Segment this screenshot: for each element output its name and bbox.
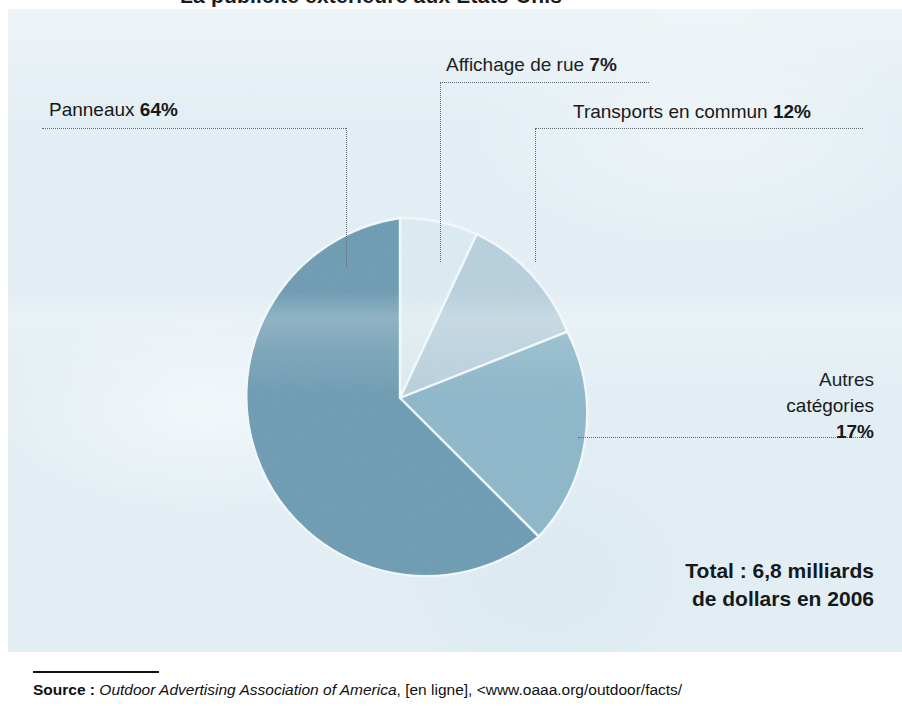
callout-panneaux: Panneaux 64%: [49, 98, 178, 121]
callout-transports-en-commun: Transports en commun 12%: [573, 100, 811, 123]
total-annotation: Total : 6,8 milliards de dollars en 2006: [568, 557, 874, 613]
callout-panneaux-value: 64%: [140, 99, 178, 120]
pie-slice-transports-en-commun: [400, 234, 567, 398]
leader-line-affichage-horizontal: [440, 82, 649, 83]
source-publication: Outdoor Advertising Association of Ameri…: [99, 681, 396, 698]
leader-line-transports-vertical: [535, 128, 536, 262]
total-line2: de dollars en 2006: [568, 585, 874, 613]
pie-slices: [246, 218, 587, 576]
source-label: Source :: [33, 681, 95, 698]
callout-autres-line2: catégories: [668, 393, 874, 419]
callout-transports-value: 12%: [773, 101, 811, 122]
chart-title-text: La publicite exterieure aux Etats-Unis: [180, 0, 562, 8]
chart-panel: Panneaux 64% Affichage de rue 7% Transpo…: [8, 9, 902, 652]
pie-slice-autres-categories: [400, 332, 587, 537]
callout-autres-line1: Autres: [668, 367, 874, 393]
chart-title-clipped: La publicite exterieure aux Etats-Unis: [0, 0, 902, 9]
total-line1: Total : 6,8 milliards: [568, 557, 874, 585]
leader-line-panneaux-horizontal: [42, 128, 346, 129]
callout-panneaux-name: Panneaux: [49, 99, 135, 120]
source-rest: , [en ligne], <www.oaaa.org/outdoor/fact…: [397, 681, 683, 698]
figure-pie-publicite-exterieure: La publicite exterieure aux Etats-Unis: [0, 0, 902, 706]
callout-autres-value: 17%: [836, 421, 874, 442]
callout-autres-categories: Autres catégories 17%: [668, 367, 874, 445]
leader-line-panneaux-vertical: [346, 128, 347, 267]
source-note: Source : Outdoor Advertising Association…: [33, 680, 893, 700]
callout-affichage-de-rue: Affichage de rue 7%: [446, 53, 617, 76]
pie-slice-panneaux: [246, 218, 538, 576]
callout-transports-name: Transports en commun: [573, 101, 768, 122]
source-rule: [33, 671, 159, 673]
leader-line-affichage-vertical: [440, 82, 441, 262]
pie-slice-affichage-de-rue: [400, 218, 477, 398]
callout-affichage-name: Affichage de rue: [446, 54, 584, 75]
callout-affichage-value: 7%: [589, 54, 616, 75]
leader-line-transports-horizontal: [535, 128, 863, 129]
